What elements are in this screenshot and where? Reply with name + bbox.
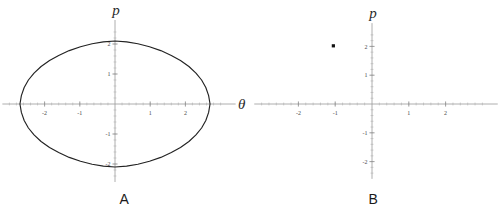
y-axis-tick-label: 1	[365, 72, 368, 78]
panel-a-caption: A	[0, 192, 249, 206]
panel-b: -2-11221-1-2θp B	[249, 0, 498, 222]
y-axis-label: p	[111, 2, 120, 18]
x-axis-tick-label: -2	[296, 110, 301, 116]
y-axis-label: p	[368, 5, 377, 21]
y-axis-tick-label: -1	[363, 130, 368, 136]
x-axis-tick-label: -1	[77, 110, 82, 116]
x-axis-tick-label: 2	[184, 110, 187, 116]
x-axis-tick-label: -2	[42, 110, 47, 116]
y-axis-tick-label: 2	[365, 44, 368, 50]
y-axis-tick-label: 1	[108, 71, 111, 77]
y-axis-tick-label: -1	[106, 131, 111, 137]
x-axis-tick-label: 1	[407, 110, 410, 116]
x-axis-label: θ	[238, 96, 246, 112]
phase-plot-a: -2-11221-1-2θp	[0, 0, 249, 222]
panel-a: -2-11221-1-2θp A	[0, 0, 249, 222]
phase-plot-b: -2-11221-1-2θp	[249, 0, 498, 222]
data-point	[332, 44, 335, 47]
x-axis-tick-label: 1	[149, 110, 152, 116]
x-axis-tick-label: -1	[333, 110, 338, 116]
panel-b-caption: B	[249, 192, 498, 206]
x-axis-tick-label: 2	[444, 110, 447, 116]
y-axis-tick-label: -2	[363, 159, 368, 165]
figure-root: -2-11221-1-2θp A -2-11221-1-2θp B	[0, 0, 498, 222]
